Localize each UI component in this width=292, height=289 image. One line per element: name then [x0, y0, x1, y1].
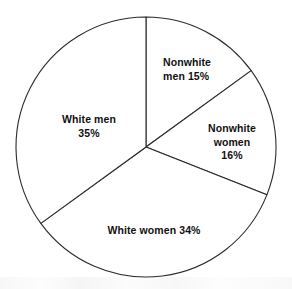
pie-slice-label-nonwhite-women: Nonwhite women 16%	[202, 122, 262, 163]
pie-slice-label-white-men: White men 35%	[62, 113, 116, 140]
pie-slice-label-white-women: White women 34%	[107, 224, 200, 238]
pie-slice-label-nonwhite-men: Nonwhite men 15%	[163, 56, 211, 83]
pie-chart: Nonwhite men 15%Nonwhite women 16%White …	[0, 0, 292, 289]
